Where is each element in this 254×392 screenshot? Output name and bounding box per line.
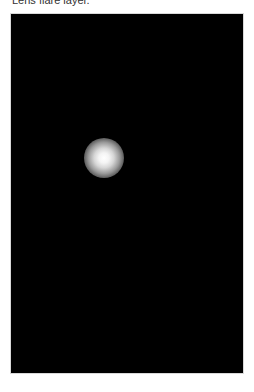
lens-flare-glow-icon [84, 138, 124, 178]
layer-caption: Lens flare layer. [12, 0, 90, 6]
preview-canvas[interactable] [10, 13, 244, 374]
